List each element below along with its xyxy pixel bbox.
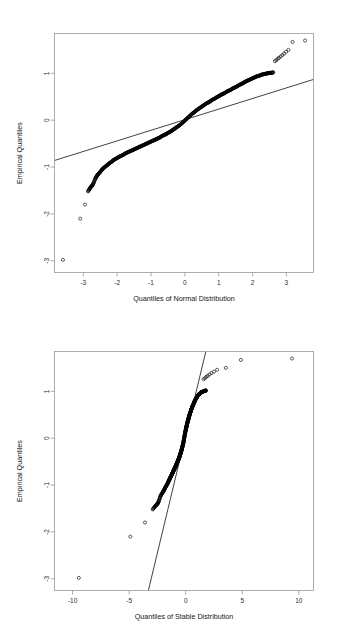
plot-data-area	[77, 352, 293, 591]
data-point	[303, 39, 306, 42]
x-tick-label: 1	[217, 279, 221, 286]
scatter-series	[77, 357, 293, 579]
data-point	[61, 258, 64, 261]
x-axis-title: Quantiles of Stable Distribution	[135, 612, 234, 621]
x-tick-label: 3	[285, 279, 289, 286]
y-axis-title: Empirical Quantiles	[15, 440, 24, 502]
data-point	[290, 357, 293, 360]
qq-plot-normal-svg: -3-2-1012310-1-2-3Quantiles of Normal Di…	[0, 0, 339, 318]
x-tick-label: -10	[68, 597, 78, 604]
y-tick-label: 0	[43, 118, 50, 122]
x-tick-label: -2	[114, 279, 120, 286]
x-tick-label: 0	[183, 279, 187, 286]
x-tick-label: -1	[148, 279, 154, 286]
data-point	[77, 576, 80, 579]
data-point	[129, 535, 132, 538]
plot-frame	[55, 34, 314, 273]
x-tick-label: 2	[251, 279, 255, 286]
y-tick-label: 0	[43, 436, 50, 440]
x-tick-label: -3	[80, 279, 86, 286]
x-axis-title: Quantiles of Normal Distribution	[133, 294, 234, 303]
data-point	[287, 48, 290, 51]
y-tick-label: -2	[43, 529, 50, 535]
data-point	[79, 217, 82, 220]
plot-data-area	[55, 39, 314, 261]
data-point	[83, 203, 86, 206]
y-tick-label: -2	[43, 211, 50, 217]
data-point	[143, 521, 146, 524]
qq-reference-line	[148, 352, 205, 591]
scatter-series	[61, 39, 306, 261]
data-point	[291, 40, 294, 43]
qq-plot-stable-svg: -10-5051010-1-2-3Quantiles of Stable Dis…	[0, 318, 339, 636]
y-tick-label: 1	[43, 71, 50, 75]
y-tick-label: -3	[43, 258, 50, 264]
x-tick-label: 5	[240, 597, 244, 604]
x-tick-label: 10	[295, 597, 303, 604]
y-tick-label: -1	[43, 164, 50, 170]
x-tick-label: 0	[184, 597, 188, 604]
x-tick-label: -5	[126, 597, 132, 604]
qq-plot-stable-panel: -10-5051010-1-2-3Quantiles of Stable Dis…	[0, 318, 339, 636]
y-tick-label: -3	[43, 576, 50, 582]
data-point	[224, 366, 227, 369]
plot-frame	[55, 352, 314, 591]
data-point	[212, 370, 215, 373]
qq-plot-normal-panel: -3-2-1012310-1-2-3Quantiles of Normal Di…	[0, 0, 339, 318]
data-point	[239, 358, 242, 361]
y-axis-title: Empirical Quantiles	[15, 122, 24, 184]
data-point	[216, 368, 219, 371]
y-tick-label: -1	[43, 482, 50, 488]
y-tick-label: 1	[43, 389, 50, 393]
